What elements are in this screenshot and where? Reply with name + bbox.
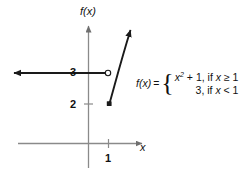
x-axis-label: x [140,142,146,153]
case-1-rest: + 1, if [184,71,216,83]
equation-function-name: f(x) [136,78,151,89]
y-tick-label-3: 3 [70,67,76,78]
quadratic-branch-curve [110,30,131,104]
case-2-value: 3, if [196,84,216,96]
equation-case-1: x2 + 1, if x ≥ 1 [175,70,239,84]
y-axis-label: f(x) [80,6,96,17]
case-2-condition: < 1 [221,84,239,96]
x-tick-label-1: 1 [105,153,111,164]
y-tick-label-2: 2 [70,99,76,110]
closed-endpoint-marker [107,101,112,106]
equation-equals-sign: = [153,78,159,89]
open-endpoint-marker [105,70,110,75]
piecewise-function-graph-figure: f(x) x 3 2 1 f(x) = { x2 + 1, if x ≥ 1 3… [0,0,251,178]
piecewise-definition: f(x) = { x2 + 1, if x ≥ 1 3, if x < 1 [136,70,238,97]
equation-case-2: 3, if x < 1 [175,84,239,98]
equation-cases: x2 + 1, if x ≥ 1 3, if x < 1 [175,70,239,97]
case-1-condition: ≥ 1 [221,71,238,83]
equation-brace: { [161,73,173,94]
